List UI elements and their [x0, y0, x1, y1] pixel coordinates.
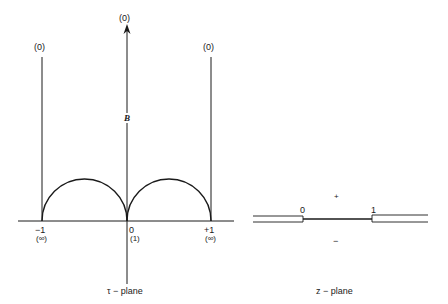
left-semicircle — [42, 179, 127, 221]
tau-label-left-top: (0) — [34, 42, 45, 52]
z-point-zero-label: 0 — [300, 205, 305, 215]
z-upper-side-label: + — [334, 192, 339, 202]
tau-axis-image-plus-one: (∞) — [205, 234, 216, 244]
diagram-canvas — [0, 0, 448, 304]
tau-label-center-top: (0) — [119, 13, 130, 23]
right-semicircle — [127, 179, 211, 221]
z-point-one-label: 1 — [371, 205, 376, 215]
region-label-b: B — [123, 113, 131, 123]
tau-label-right-top: (0) — [203, 42, 214, 52]
z-lower-side-label: − — [333, 236, 338, 246]
tau-plane-caption: τ − plane — [107, 286, 143, 296]
z-plane-figure — [253, 215, 428, 222]
tau-plane-figure — [18, 24, 234, 284]
tau-axis-image-minus-one: (∞) — [36, 234, 47, 244]
tau-axis-image-zero: (1) — [130, 234, 140, 244]
z-plane-caption: z − plane — [316, 286, 353, 296]
